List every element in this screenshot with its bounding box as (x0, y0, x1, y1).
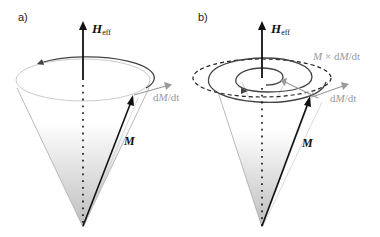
field-arrowhead-icon (79, 21, 87, 30)
field-label: Heff (91, 21, 111, 37)
derivative-label: dM/dt (330, 92, 356, 104)
field-label: Heff (270, 21, 290, 37)
derivative-arrowhead-icon (164, 82, 172, 90)
precession-diagram: a) Heff M dM/dt b) (0, 0, 380, 237)
magnetization-label: M (301, 136, 313, 150)
damping-label: M × dM/dt (312, 50, 360, 62)
field-arrowhead-icon (258, 21, 266, 30)
panel-a-label: a) (18, 11, 28, 23)
panel-b-label: b) (198, 11, 208, 23)
magnetization-label: M (123, 134, 135, 148)
derivative-arrowhead-icon (341, 82, 349, 90)
panel-b: b) Heff M × dM/dt M (193, 11, 360, 227)
panel-a: a) Heff M dM/dt (16, 11, 179, 227)
cone-body (218, 78, 313, 227)
derivative-label: dM/dt (153, 91, 179, 103)
